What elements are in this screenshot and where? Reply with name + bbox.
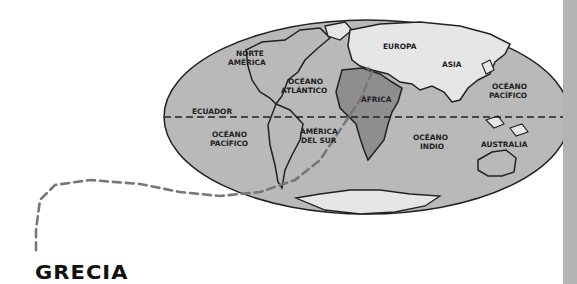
label-south-america-2: DEL SUR [301, 136, 337, 145]
world-map: ✶ NORTE AMÉRICA OCÉANO ATLÁNTICO EUROPA … [0, 0, 577, 284]
label-indian-2: INDIO [420, 142, 444, 151]
side-bar [563, 0, 577, 284]
label-equator: ECUADOR [192, 107, 232, 116]
label-north-america-2: AMÉRICA [228, 58, 266, 67]
map-title: GRECIA [35, 262, 129, 282]
label-africa: ÁFRICA [361, 95, 392, 104]
label-atlantic-1: OCÉANO [288, 77, 323, 86]
label-pacific-east-1: OCÉANO [492, 82, 527, 91]
label-pacific-west-2: PACÍFICO [210, 139, 248, 148]
label-asia: ASIA [442, 60, 462, 69]
greece-star-icon: ✶ [364, 64, 372, 75]
label-north-america-1: NORTE [236, 49, 264, 58]
label-indian-1: OCÉANO [413, 133, 448, 142]
label-pacific-west-1: OCÉANO [212, 130, 247, 139]
label-europe: EUROPA [383, 42, 417, 51]
label-australia: AUSTRALIA [481, 140, 528, 149]
label-pacific-east-2: PACÍFICO [489, 91, 527, 100]
label-atlantic-2: ATLÁNTICO [281, 86, 327, 95]
label-south-america-1: AMÉRICA [300, 127, 338, 136]
